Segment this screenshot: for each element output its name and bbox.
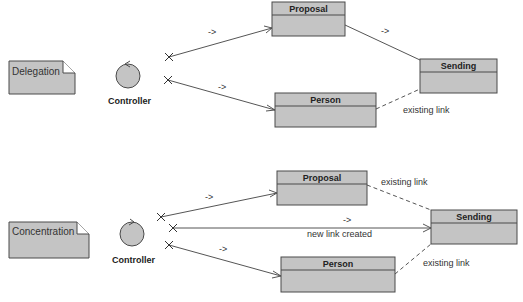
class-sending[interactable]: Sending [420,59,497,93]
delegation-diagram: Delegation Controller -> -> -> Proposal [9,2,497,127]
existing-link-label: existing link [423,258,470,268]
class-name: Sending [441,61,477,71]
cross-icon [157,213,177,249]
delegation-note[interactable]: Delegation [9,61,75,94]
arrow-label: -> [208,27,216,37]
class-person[interactable]: Person [281,257,395,292]
controller-icon[interactable] [116,61,140,88]
link-controller-proposal[interactable] [161,193,277,217]
note-label: Delegation [12,66,60,77]
diagram-canvas: Delegation Controller -> -> -> Proposal [0,0,523,302]
class-name: Proposal [289,4,328,14]
class-sending[interactable]: Sending [431,210,517,244]
controller-label: Controller [112,255,155,265]
class-name: Sending [456,212,492,222]
new-link-label: new link created [307,229,372,239]
class-proposal[interactable]: Proposal [277,171,367,205]
existing-link-label: existing link [381,177,428,187]
cross-icon [164,53,173,84]
arrow-label: -> [205,192,213,202]
note-label: Concentration [12,226,74,237]
arrow-label: -> [343,215,351,225]
arrow-label: -> [381,26,389,36]
link-controller-proposal[interactable] [169,28,272,57]
class-proposal[interactable]: Proposal [272,2,345,36]
controller-icon[interactable] [120,219,144,246]
arrow-label: -> [218,82,226,92]
existing-link-label: existing link [403,105,450,115]
class-name: Proposal [303,173,342,183]
class-name: Person [323,259,354,269]
class-name: Person [310,95,341,105]
concentration-note[interactable]: Concentration [9,222,89,258]
class-person[interactable]: Person [275,93,376,127]
controller-label: Controller [108,96,151,106]
existing-link-proposal-sending[interactable] [367,185,431,210]
concentration-diagram: Concentration Controller -> -> -> Propos… [9,171,517,292]
arrow-label: -> [219,244,227,254]
